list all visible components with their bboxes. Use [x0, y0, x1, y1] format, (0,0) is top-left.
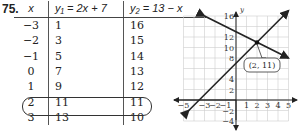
svg-text:16: 16	[224, 12, 234, 21]
svg-text:−2: −2	[222, 107, 234, 116]
svg-text:4: 4	[275, 101, 280, 110]
svg-text:−5: −5	[178, 101, 190, 110]
svg-text:2: 2	[254, 101, 259, 110]
svg-text:3: 3	[265, 101, 270, 110]
svg-text:−4: −4	[222, 117, 234, 126]
svg-text:1: 1	[244, 101, 249, 110]
svg-text:5: 5	[286, 101, 291, 110]
y-axis-label: y	[239, 6, 245, 14]
annotation-callout: (2, 11)	[244, 44, 280, 72]
graph: −5−3−2−112345161210842−2−4 y (2, 11)	[0, 0, 298, 132]
svg-text:4: 4	[229, 75, 234, 84]
svg-text:8: 8	[229, 54, 234, 63]
annotation-label: (2, 11)	[249, 61, 276, 70]
svg-text:2: 2	[229, 86, 234, 95]
svg-text:12: 12	[224, 33, 234, 42]
svg-text:10: 10	[224, 44, 234, 53]
